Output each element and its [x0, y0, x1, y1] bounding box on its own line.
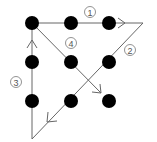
dot-9 — [102, 94, 116, 108]
step-label-2: 2 — [125, 45, 136, 56]
svg-text:2: 2 — [127, 46, 132, 56]
dot-7 — [25, 94, 39, 108]
svg-text:1: 1 — [87, 8, 92, 18]
dot-6 — [102, 55, 116, 69]
dot-2 — [64, 16, 78, 30]
step-label-1: 1 — [85, 7, 96, 18]
dot-1 — [25, 16, 39, 30]
nine-dot-diagram: 1 2 3 4 — [0, 0, 157, 142]
step-label-4: 4 — [66, 38, 77, 49]
arrowhead-2-icon — [47, 112, 57, 122]
dot-4 — [25, 55, 39, 69]
step-label-3: 3 — [11, 77, 22, 88]
lines — [27, 18, 143, 139]
svg-text:3: 3 — [13, 78, 18, 88]
svg-text:4: 4 — [68, 39, 73, 49]
dot-8 — [64, 94, 78, 108]
dot-3 — [102, 16, 116, 30]
dot-5 — [64, 55, 78, 69]
